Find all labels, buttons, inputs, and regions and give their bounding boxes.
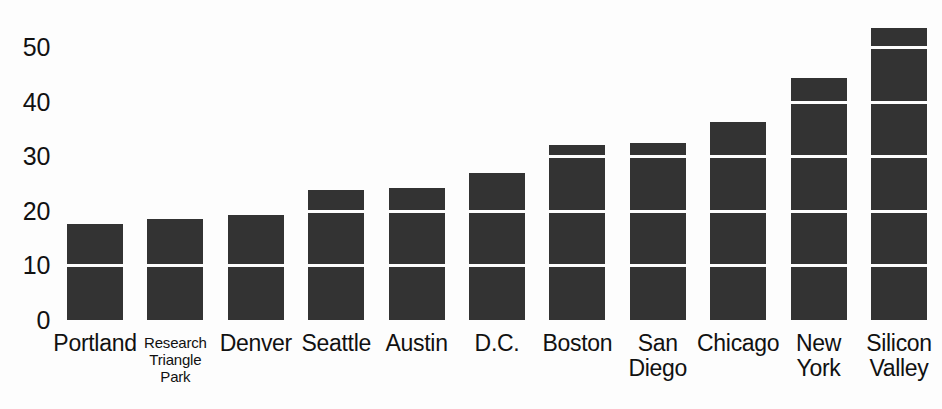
y-axis-tick-label: 40 [23,87,50,116]
bar [549,145,605,320]
y-axis-tick-label: 30 [23,142,50,171]
bar [630,143,686,320]
gridline [60,264,942,267]
bar [710,122,766,320]
bar [228,215,284,320]
y-axis: 01020304050 [0,0,60,409]
x-axis-tick-label: ResearchTrianglePark [132,334,218,385]
bar [67,224,123,320]
x-axis-tick-label: Portland [52,331,138,356]
x-axis-tick-label: Boston [534,331,620,356]
x-axis-tick-label: D.C. [454,331,540,356]
x-axis-tick-label: NewYork [776,331,862,381]
y-axis-tick-label: 0 [36,306,50,335]
bar [791,78,847,320]
gridline [60,46,942,49]
bar [469,173,525,320]
x-axis: PortlandResearchTriangleParkDenverSeattl… [60,331,942,409]
x-axis-tick-label: Austin [374,331,460,356]
bar [147,219,203,320]
y-axis-tick-label: 20 [23,196,50,225]
y-axis-tick-label: 10 [23,251,50,280]
bar-chart: 01020304050 PortlandResearchTrianglePark… [0,0,942,409]
x-axis-tick-label: SanDiego [615,331,701,381]
x-axis-tick-label: Chicago [695,331,781,356]
gridline [60,155,942,158]
gridline [60,101,942,104]
x-axis-tick-label: Denver [213,331,299,356]
bar [871,28,927,320]
x-axis-tick-label: Seattle [293,331,379,356]
bar [389,188,445,320]
y-axis-tick-label: 50 [23,33,50,62]
x-axis-tick-label: SiliconValley [856,331,942,381]
gridline [60,210,942,213]
